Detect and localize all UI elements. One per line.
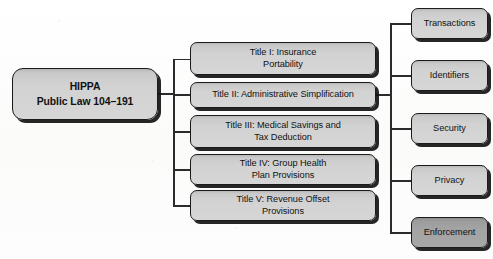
connector-branch-area-2 bbox=[390, 75, 412, 77]
node-title-5-label: Title V: Revenue Offset Provisions bbox=[237, 194, 330, 217]
node-title-5[interactable]: Title V: Revenue Offset Provisions bbox=[190, 190, 376, 221]
node-title-2[interactable]: Title II: Administrative Simplification bbox=[190, 82, 376, 108]
node-title-4-label: Title IV: Group Health Plan Provisions bbox=[240, 158, 327, 181]
node-area-transactions[interactable]: Transactions bbox=[411, 8, 488, 39]
connector-branch-area-1 bbox=[390, 23, 412, 25]
node-area-enforcement[interactable]: Enforcement bbox=[411, 217, 488, 248]
node-title-3[interactable]: Title III: Medical Savings and Tax Deduc… bbox=[190, 115, 376, 148]
node-hippa-root[interactable]: HIPPA Public Law 104–191 bbox=[12, 68, 158, 120]
node-area-transactions-label: Transactions bbox=[424, 18, 476, 30]
node-title-1[interactable]: Title I: Insurance Portability bbox=[190, 42, 376, 75]
node-hippa-root-label: HIPPA Public Law 104–191 bbox=[37, 79, 134, 109]
node-area-security[interactable]: Security bbox=[411, 113, 488, 144]
connector-branch-area-5 bbox=[390, 232, 412, 234]
node-title-2-label: Title II: Administrative Simplification bbox=[212, 89, 354, 101]
connector-branch-title-1 bbox=[173, 59, 191, 61]
connector-branch-title-5 bbox=[173, 205, 191, 207]
connector-root-stub bbox=[158, 93, 174, 95]
node-title-3-label: Title III: Medical Savings and Tax Deduc… bbox=[225, 120, 341, 143]
connector-branch-area-4 bbox=[390, 180, 412, 182]
node-area-enforcement-label: Enforcement bbox=[424, 227, 476, 239]
connector-branch-title-3 bbox=[173, 131, 191, 133]
node-title-4[interactable]: Title IV: Group Health Plan Provisions bbox=[190, 154, 376, 185]
connector-branch-title-2 bbox=[173, 94, 191, 96]
node-area-identifiers[interactable]: Identifiers bbox=[411, 60, 488, 91]
connector-branch-area-3 bbox=[390, 128, 412, 130]
hippa-structure-diagram: HIPPA Public Law 104–191 Title I: Insura… bbox=[0, 0, 493, 259]
node-area-privacy[interactable]: Privacy bbox=[411, 165, 488, 196]
node-area-identifiers-label: Identifiers bbox=[430, 70, 469, 82]
connector-branch-title-4 bbox=[173, 169, 191, 171]
node-title-1-label: Title I: Insurance Portability bbox=[250, 47, 317, 70]
node-area-privacy-label: Privacy bbox=[435, 175, 465, 187]
node-area-security-label: Security bbox=[433, 123, 466, 135]
